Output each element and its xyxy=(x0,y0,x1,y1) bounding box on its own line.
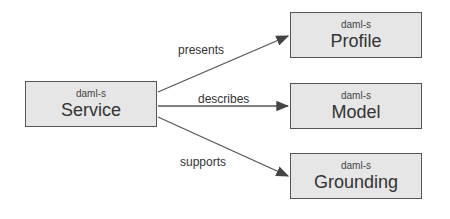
profile-node: daml-s Profile xyxy=(290,12,422,58)
service-namespace: daml-s xyxy=(26,88,156,99)
profile-name: Profile xyxy=(291,30,421,52)
edge-label-describes: describes xyxy=(198,92,249,106)
service-node: daml-s Service xyxy=(25,81,157,127)
grounding-node: daml-s Grounding xyxy=(290,153,422,199)
profile-namespace: daml-s xyxy=(291,19,421,30)
edge-label-presents: presents xyxy=(178,43,224,57)
service-name: Service xyxy=(26,99,156,121)
edge-label-supports: supports xyxy=(180,155,226,169)
model-name: Model xyxy=(291,101,421,123)
grounding-name: Grounding xyxy=(291,171,421,193)
model-namespace: daml-s xyxy=(291,90,421,101)
model-node: daml-s Model xyxy=(290,83,422,129)
grounding-namespace: daml-s xyxy=(291,160,421,171)
